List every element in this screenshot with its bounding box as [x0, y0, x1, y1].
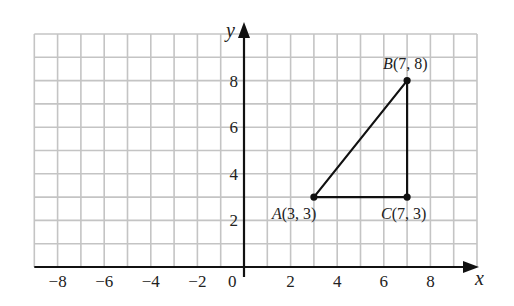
origin-label: 0: [228, 272, 237, 291]
point-c-dot: [404, 194, 411, 201]
point-a-dot: [310, 194, 317, 201]
point-c-label: C(7, 3): [381, 205, 426, 223]
point-b-dot: [404, 77, 411, 84]
x-tick-label: −4: [142, 272, 161, 291]
x-tick-label: −8: [49, 272, 67, 291]
y-tick-label: 8: [230, 72, 239, 91]
y-tick-label: 4: [230, 165, 239, 184]
x-tick-label: 8: [426, 272, 435, 291]
point-a-label: A(3, 3): [271, 205, 316, 223]
x-tick-label: 2: [286, 272, 295, 291]
y-tick-label: 2: [230, 211, 239, 230]
coordinate-plane: −8−6−4−224682468 A(3, 3)B(7, 8)C(7, 3) x…: [0, 0, 514, 306]
x-axis-label: x: [474, 267, 484, 289]
x-tick-label: 6: [380, 272, 389, 291]
y-tick-label: 6: [230, 118, 239, 137]
x-tick-label: −6: [95, 272, 113, 291]
y-axis-arrow-icon: [238, 22, 250, 38]
x-tick-label: 4: [333, 272, 342, 291]
y-axis-label: y: [224, 19, 235, 42]
point-b-label: B(7, 8): [383, 55, 427, 73]
x-tick-label: −2: [188, 272, 206, 291]
